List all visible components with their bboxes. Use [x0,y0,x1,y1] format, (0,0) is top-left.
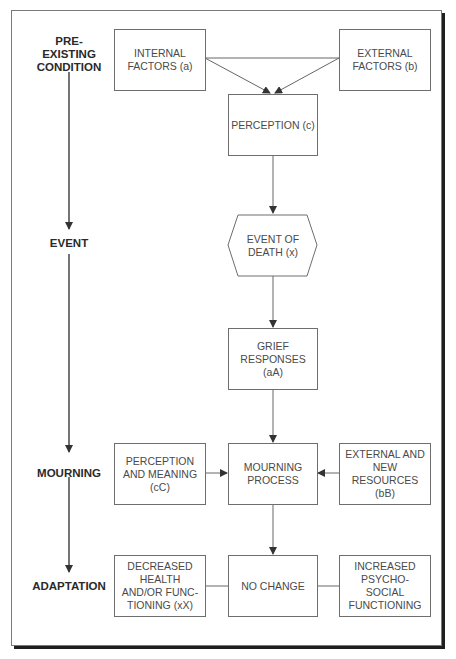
event-of-death-label: EVENT OF DEATH (x) [228,215,318,277]
mourning-process-box: MOURNING PROCESS [228,443,318,505]
external-and-new-resources-box: EXTERNAL AND NEW RESOURCES (bB) [339,443,431,505]
perception-box: PERCEPTION (c) [228,94,318,156]
stage-label-adaptation: ADAPTATION [24,580,114,593]
stage-label-pre-existing-condition: PRE- EXISTING CONDITION [24,35,114,74]
stage-label-event: EVENT [24,237,114,250]
perception-and-meaning-box: PERCEPTION AND MEANING (cC) [114,443,206,505]
increased-psychosocial-box: INCREASED PSYCHO- SOCIAL FUNCTIONING [339,555,431,617]
internal-factors-box: INTERNAL FACTORS (a) [114,29,206,91]
external-factors-box: EXTERNAL FACTORS (b) [339,29,431,91]
grief-responses-box: GRIEF RESPONSES (aA) [228,328,318,390]
stage-label-mourning: MOURNING [24,467,114,480]
no-change-box: NO CHANGE [228,555,318,617]
decreased-health-box: DECREASED HEALTH AND/OR FUNC- TIONING (x… [114,555,206,617]
